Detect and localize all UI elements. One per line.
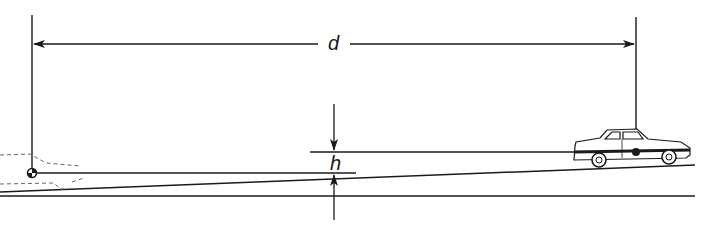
inclined-road-line (0, 165, 695, 192)
height-label: h (326, 153, 345, 173)
observer-marker-icon (28, 169, 37, 178)
diagram-canvas (0, 0, 720, 233)
sight-distance-diagram: d h (0, 0, 720, 233)
distance-label: d (324, 33, 343, 53)
target-car-icon (574, 129, 690, 167)
ghost-car-outline (0, 154, 84, 189)
